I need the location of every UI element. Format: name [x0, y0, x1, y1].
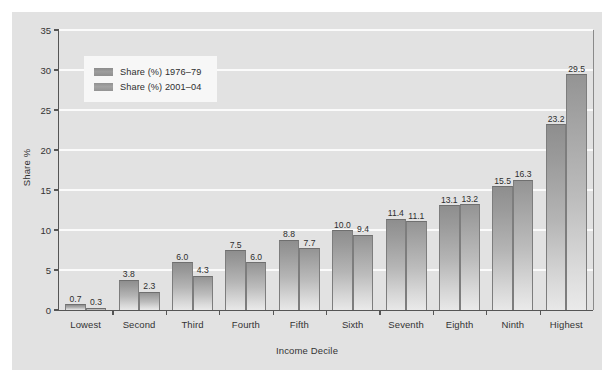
- x-tick-mark: [219, 310, 220, 315]
- bar-value-label: 13.1: [441, 195, 458, 205]
- y-tick-label: 25: [40, 105, 51, 116]
- bar-value-label: 6.0: [250, 252, 262, 262]
- y-axis-title: Share %: [21, 118, 32, 218]
- y-tick-label: 0: [46, 305, 51, 316]
- x-tick-mark: [379, 310, 380, 315]
- bar: 10.0: [332, 230, 353, 310]
- bar: 8.8: [279, 240, 300, 310]
- y-tick-mark: [54, 69, 59, 70]
- y-tick-mark: [54, 309, 59, 310]
- bar: 11.4: [386, 219, 407, 310]
- bar-value-label: 2.3: [143, 281, 155, 291]
- bar-value-label: 15.5: [494, 176, 511, 186]
- x-tick-mark: [486, 310, 487, 315]
- y-tick-mark: [54, 29, 59, 30]
- y-tick-label: 20: [40, 145, 51, 156]
- legend-label: Share (%) 1976–79: [120, 67, 201, 77]
- bar: 29.5: [566, 74, 587, 310]
- x-category-label: Third: [181, 319, 203, 330]
- plot-right-border: [593, 30, 594, 310]
- y-tick-label: 30: [40, 65, 51, 76]
- legend-swatch-icon: [94, 68, 113, 76]
- x-tick-mark: [166, 310, 167, 315]
- x-tick-mark: [273, 310, 274, 315]
- y-tick-mark: [54, 269, 59, 270]
- y-tick-label: 10: [40, 225, 51, 236]
- x-category-label: Eighth: [446, 319, 474, 330]
- bar-value-label: 6.0: [176, 252, 188, 262]
- bar-value-label: 11.1: [408, 211, 424, 221]
- bar: 11.1: [406, 221, 427, 310]
- y-tick-mark: [54, 229, 59, 230]
- legend-item[interactable]: Share (%) 1976–79: [94, 67, 217, 77]
- bar: 13.1: [439, 205, 460, 310]
- bar-value-label: 13.2: [461, 194, 478, 204]
- x-tick-mark: [540, 310, 541, 315]
- x-tick-mark: [433, 310, 434, 315]
- bar: 6.0: [246, 262, 267, 310]
- y-tick-label: 5: [46, 265, 51, 276]
- y-tick-label: 35: [40, 25, 51, 36]
- x-category-label: Lowest: [70, 319, 101, 330]
- bar: 13.2: [460, 204, 481, 310]
- chart-legend: Share (%) 1976–79Share (%) 2001–04: [84, 56, 217, 102]
- bar: 0.7: [65, 304, 86, 310]
- y-tick-mark: [54, 149, 59, 150]
- bar: 23.2: [546, 124, 567, 310]
- gridline: [59, 109, 593, 110]
- bar-value-label: 0.7: [69, 294, 81, 304]
- bar-value-label: 16.3: [515, 169, 532, 179]
- gridline: [59, 149, 593, 150]
- bar-value-label: 4.3: [197, 265, 209, 275]
- gridline: [59, 29, 593, 30]
- legend-item[interactable]: Share (%) 2001–04: [94, 82, 217, 92]
- bar: 3.8: [119, 280, 140, 310]
- bar-value-label: 9.4: [357, 224, 369, 234]
- y-tick-mark: [54, 189, 59, 190]
- x-category-label: Second: [123, 319, 156, 330]
- x-tick-mark: [326, 310, 327, 315]
- x-category-label: Ninth: [502, 319, 525, 330]
- x-category-label: Fifth: [290, 319, 309, 330]
- bar-value-label: 23.2: [548, 114, 565, 124]
- bar-value-label: 11.4: [388, 208, 404, 218]
- bar: 6.0: [172, 262, 193, 310]
- x-category-label: Sixth: [342, 319, 364, 330]
- x-tick-mark: [112, 310, 113, 315]
- legend-swatch-icon: [94, 83, 113, 91]
- bar: 7.7: [299, 248, 320, 310]
- x-axis-title: Income Decile: [12, 345, 602, 356]
- legend-label: Share (%) 2001–04: [120, 82, 201, 92]
- y-tick-label: 15: [40, 185, 51, 196]
- bar: 16.3: [513, 180, 534, 310]
- bar-value-label: 29.5: [568, 64, 585, 74]
- bar: 9.4: [353, 235, 374, 310]
- bar-value-label: 0.3: [90, 297, 102, 307]
- x-category-label: Seventh: [388, 319, 424, 330]
- bar: 0.3: [86, 308, 107, 310]
- chart-figure: Share % Income Decile 05101520253035 Low…: [12, 12, 602, 370]
- bar: 7.5: [225, 250, 246, 310]
- bar-value-label: 8.8: [283, 229, 295, 239]
- bar: 4.3: [193, 276, 214, 310]
- bar: 15.5: [492, 186, 513, 310]
- bar-value-label: 7.7: [304, 238, 316, 248]
- bar-value-label: 7.5: [230, 240, 242, 250]
- bar: 2.3: [139, 292, 160, 310]
- bar-value-label: 10.0: [334, 220, 351, 230]
- x-category-label: Highest: [550, 319, 583, 330]
- bar-value-label: 3.8: [123, 269, 135, 279]
- x-category-label: Fourth: [232, 319, 260, 330]
- y-tick-mark: [54, 109, 59, 110]
